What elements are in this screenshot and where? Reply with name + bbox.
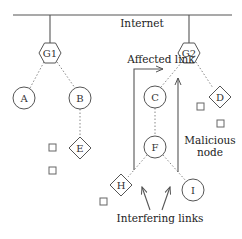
node-c: C	[144, 86, 166, 108]
square-device-2	[49, 167, 56, 174]
node-f-label: F	[152, 142, 159, 153]
malicious-node-label-line1: Malicious	[184, 134, 235, 146]
node-a-label: A	[19, 93, 28, 104]
interfering-links-label: Interfering links	[117, 212, 204, 224]
node-d-label: D	[216, 92, 224, 103]
malicious-node-label-line2: node	[197, 146, 223, 158]
square-device-4	[197, 103, 204, 110]
node-d-malicious: D	[209, 86, 231, 108]
node-h-label: H	[117, 180, 126, 191]
node-i-label: I	[191, 185, 195, 196]
link-g1-b	[57, 62, 75, 88]
interfering-arrow-right	[162, 187, 170, 210]
node-e: E	[69, 137, 91, 159]
network-diagram: Internet G1 G2 A B C F I	[0, 0, 242, 239]
node-i: I	[182, 179, 204, 201]
square-device-1	[49, 144, 56, 151]
gateway-g1-label: G1	[43, 48, 57, 59]
link-f-i	[163, 155, 186, 181]
gateway-g1: G1	[39, 43, 61, 63]
node-b-label: B	[76, 93, 83, 104]
link-g1-a	[30, 62, 44, 88]
node-b: B	[69, 87, 91, 109]
internet-label: Internet	[120, 17, 164, 29]
node-e-label: E	[76, 143, 83, 154]
node-f: F	[144, 136, 166, 158]
node-h: H	[110, 174, 132, 196]
square-device-3	[100, 198, 107, 205]
link-g2-d	[196, 62, 213, 88]
interfering-arrow-left	[142, 187, 150, 210]
affected-link-label: Affected link	[126, 53, 195, 65]
square-device-5	[217, 120, 224, 127]
link-f-h	[128, 155, 147, 177]
node-c-label: C	[151, 92, 159, 103]
link-g2-c	[161, 62, 182, 87]
node-a: A	[13, 87, 35, 109]
